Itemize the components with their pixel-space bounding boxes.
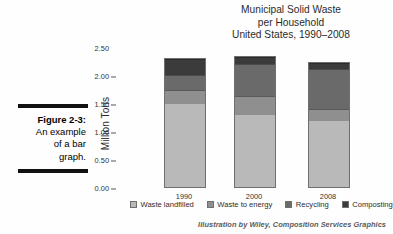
bar-segment-recycling[interactable] bbox=[309, 69, 349, 109]
y-axis-tick: 2.50 bbox=[95, 44, 118, 53]
bar-segment-waste-landfilled[interactable] bbox=[235, 115, 275, 187]
bar-segment-waste-to-energy[interactable] bbox=[165, 90, 205, 103]
legend-swatch-icon bbox=[342, 201, 349, 208]
bar-segment-waste-to-energy[interactable] bbox=[309, 109, 349, 121]
bar-2008[interactable] bbox=[308, 62, 350, 188]
legend-swatch-icon bbox=[207, 201, 214, 208]
legend-swatch-icon bbox=[130, 201, 137, 208]
bar-segment-recycling[interactable] bbox=[165, 75, 205, 91]
y-axis-tick-mark bbox=[111, 48, 116, 49]
legend-label: Waste landfilled bbox=[141, 200, 194, 209]
y-axis-tick-label: 2.50 bbox=[95, 44, 109, 53]
y-axis-tick-mark bbox=[111, 188, 116, 189]
attribution-text: Illustration by Wiley, Composition Servi… bbox=[198, 220, 386, 229]
y-axis-tick: 0.50 bbox=[95, 156, 118, 165]
legend-label: Composting bbox=[352, 200, 393, 209]
bar-segment-waste-landfilled[interactable] bbox=[165, 104, 205, 187]
y-axis-tick-label: 1.00 bbox=[95, 128, 109, 137]
y-axis-tick-label: 0.50 bbox=[95, 156, 109, 165]
legend-item-composting[interactable]: Composting bbox=[342, 200, 393, 209]
y-axis-tick: 1.00 bbox=[95, 128, 118, 137]
figure-caption-line-2: An example bbox=[18, 126, 86, 138]
chart-title-line-2: per Household bbox=[196, 17, 386, 30]
y-axis-tick-mark bbox=[111, 76, 116, 77]
legend-item-waste-landfilled[interactable]: Waste landfilled bbox=[130, 200, 194, 209]
y-axis-tick-label: 1.50 bbox=[95, 100, 109, 109]
bar-1990[interactable] bbox=[164, 58, 206, 188]
caption-rule-bottom bbox=[18, 169, 88, 173]
bar-group bbox=[118, 48, 380, 190]
bar-segment-composting[interactable] bbox=[165, 59, 205, 75]
plot-area: 0.000.501.001.502.002.50 199020002008 bbox=[118, 48, 380, 190]
figure-caption-text: Figure 2-3: An example of a bar graph. bbox=[18, 108, 88, 169]
bar-2000[interactable] bbox=[234, 56, 276, 188]
legend-label: Waste to energy bbox=[217, 200, 272, 209]
legend-swatch-icon bbox=[285, 201, 292, 208]
y-axis-tick: 1.50 bbox=[95, 100, 118, 109]
chart-title-line-1: Municipal Solid Waste bbox=[196, 4, 386, 17]
chart-legend: Waste landfilledWaste to energyRecycling… bbox=[130, 200, 380, 209]
figure-number: Figure 2-3: bbox=[37, 114, 86, 125]
y-axis-tick-mark bbox=[111, 160, 116, 161]
bar-segment-waste-to-energy[interactable] bbox=[235, 96, 275, 114]
y-axis-tick-label: 2.00 bbox=[95, 72, 109, 81]
y-axis-tick-mark bbox=[111, 132, 116, 133]
legend-item-waste-to-energy[interactable]: Waste to energy bbox=[207, 200, 273, 209]
y-axis-tick-mark bbox=[111, 104, 116, 105]
legend-item-recycling[interactable]: Recycling bbox=[285, 200, 328, 209]
chart-title-line-3: United States, 1990–2008 bbox=[196, 29, 386, 42]
figure-caption-line-4: graph. bbox=[18, 151, 86, 163]
y-axis-tick: 0.00 bbox=[95, 184, 118, 193]
bar-segment-composting[interactable] bbox=[309, 63, 349, 70]
y-axis-label: Million Tons bbox=[99, 78, 113, 168]
figure-caption-line-3: of a bar bbox=[18, 138, 86, 150]
bar-segment-recycling[interactable] bbox=[235, 64, 275, 97]
y-axis-tick: 2.00 bbox=[95, 72, 118, 81]
chart-title: Municipal Solid Waste per Household Unit… bbox=[196, 4, 386, 42]
legend-label: Recycling bbox=[296, 200, 329, 209]
y-axis-tick-label: 0.00 bbox=[95, 184, 109, 193]
figure-caption-block: Figure 2-3: An example of a bar graph. bbox=[18, 104, 90, 173]
bar-segment-waste-landfilled[interactable] bbox=[309, 121, 349, 187]
